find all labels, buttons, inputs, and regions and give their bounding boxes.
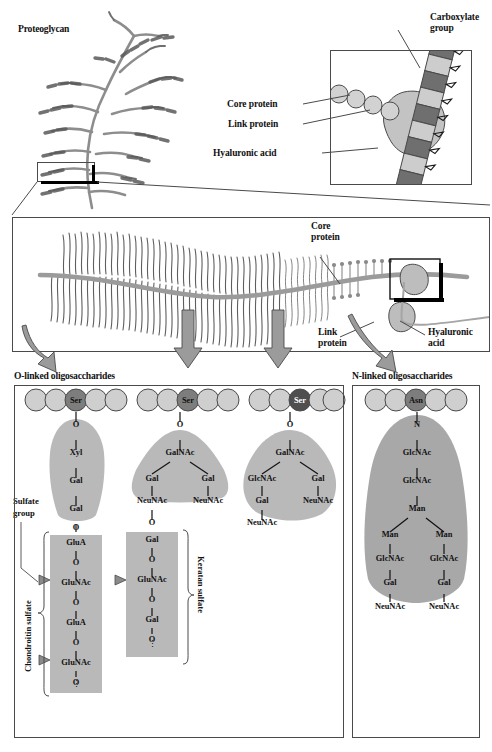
- arrow-2: [174, 310, 202, 368]
- arrow-4: [348, 314, 396, 372]
- label-core-protein-inset: Core protein: [227, 99, 277, 110]
- label-core-protein-middle: Core protein: [311, 221, 340, 243]
- label-carboxylate-line1: Carboxylate: [430, 12, 479, 23]
- n-linked-panel-border: [352, 385, 480, 738]
- arrow-3: [264, 310, 292, 368]
- arrow-1: [22, 325, 56, 372]
- label-link-protein-inset: Link protein: [228, 119, 278, 130]
- section-header-n-linked: N-linked oligosaccharides: [352, 370, 452, 381]
- section-header-o-linked: O-linked oligosaccharides: [14, 370, 115, 381]
- label-core-protein-middle-line2: protein: [311, 232, 340, 243]
- label-carboxylate-group: Carboxylate group: [430, 12, 479, 34]
- down-arrows-group: [0, 300, 492, 380]
- o-linked-panel-border: [14, 385, 344, 738]
- label-core-protein-middle-line1: Core: [311, 221, 340, 232]
- label-hyaluronic-acid-inset: Hyaluronic acid: [213, 148, 277, 159]
- label-carboxylate-line2: group: [430, 23, 479, 34]
